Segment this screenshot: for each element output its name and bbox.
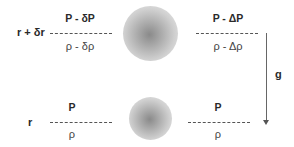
upper-env-density: ρ - Δρ: [193, 40, 263, 52]
upper-env-divider: [196, 33, 258, 34]
lower-env-divider: [188, 122, 250, 123]
lower-parcel-pressure: P: [37, 101, 107, 113]
upper-parcel-density: ρ - δρ: [45, 40, 115, 52]
gravity-arrow-shaft: [266, 33, 267, 121]
lower-parcel-density: ρ: [37, 128, 107, 140]
lower-env-pressure: P: [183, 101, 253, 113]
lower-fluid-parcel: [129, 97, 172, 140]
upper-env-pressure: P - ΔP: [193, 12, 263, 24]
gravity-arrow-head-icon: [263, 120, 269, 125]
upper-fluid-parcel: [123, 6, 178, 61]
lower-parcel-divider: [50, 122, 112, 123]
lower-env-density: ρ: [183, 128, 253, 140]
upper-radius-label: r + δr: [17, 26, 45, 38]
upper-parcel-divider: [50, 33, 112, 34]
lower-radius-label: r: [28, 116, 32, 128]
upper-parcel-pressure: P - δP: [45, 12, 115, 24]
gravity-label: g: [275, 68, 282, 80]
